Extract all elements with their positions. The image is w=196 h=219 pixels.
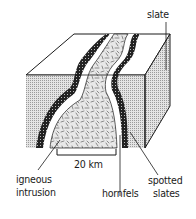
label-igneous: igneous [16, 173, 52, 185]
label-slate: slate [147, 8, 169, 20]
label-hornfels: hornfels [102, 187, 139, 199]
label-slates: slates [153, 187, 180, 199]
label-intrusion: intrusion [16, 186, 56, 198]
scale-bar [57, 149, 116, 155]
label-spotted: spotted [148, 174, 183, 186]
label-scale: 20 km [74, 158, 103, 170]
